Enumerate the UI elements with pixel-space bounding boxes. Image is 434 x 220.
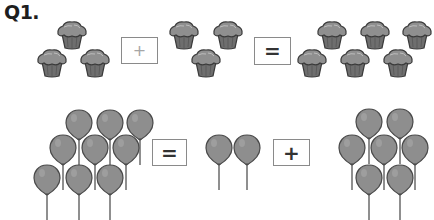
- muffin-icon: [338, 48, 372, 78]
- balloon-icon: [385, 164, 415, 220]
- balloon-icon: [95, 164, 125, 220]
- muffin-icon: [315, 20, 349, 50]
- muffin-icon: [211, 20, 245, 50]
- question-label: Q1.: [4, 1, 39, 23]
- muffin-icon: [35, 48, 69, 78]
- balloon-icon: [204, 134, 234, 190]
- balloon-icon: [64, 164, 94, 220]
- plus-operator-box: +: [273, 139, 310, 166]
- plus-sign: +: [133, 43, 146, 59]
- balloon-icon: [232, 134, 262, 190]
- muffin-icon: [167, 20, 201, 50]
- muffin-icon: [78, 48, 112, 78]
- balloon-icon: [32, 164, 62, 220]
- equals-sign: =: [161, 143, 178, 163]
- equals-operator-box: =: [152, 139, 187, 166]
- muffin-icon: [358, 20, 392, 50]
- muffin-icon: [381, 48, 415, 78]
- muffin-icon: [295, 48, 329, 78]
- equals-sign: =: [264, 41, 281, 61]
- equals-operator-box: =: [254, 37, 291, 65]
- plus-sign: +: [283, 143, 300, 163]
- muffin-icon: [189, 48, 223, 78]
- muffin-icon: [400, 20, 434, 50]
- balloon-icon: [354, 164, 384, 220]
- muffin-icon: [55, 20, 89, 50]
- plus-operator-box: +: [121, 37, 158, 64]
